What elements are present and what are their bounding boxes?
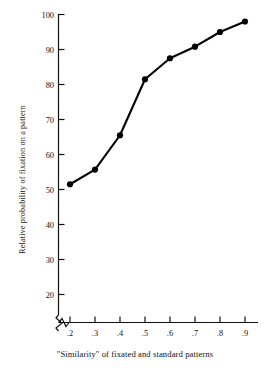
y-axis-ticks: [59, 15, 65, 295]
data-point-.5: [142, 76, 148, 82]
x-tick-label-5: .7: [192, 329, 198, 338]
data-point-.2: [67, 181, 73, 187]
y-tick-label-90: 90: [46, 46, 54, 55]
x-axis-ticks: [70, 317, 245, 323]
y-tick-label-70: 70: [46, 116, 54, 125]
x-tick-label-3: .5: [142, 329, 148, 338]
data-point-.9: [242, 18, 248, 24]
data-point-.4: [117, 132, 123, 138]
axis-lines: [56, 14, 258, 331]
x-tick-label-0: .2: [67, 329, 73, 338]
y-tick-label-40: 40: [46, 221, 54, 230]
x-tick-label-6: .8: [217, 329, 223, 338]
data-point-.7: [192, 44, 198, 50]
x-tick-label-1: .3: [92, 329, 98, 338]
x-axis-tick-labels: .2 .3 .4 .5 .6 .7 .8 .9: [67, 329, 248, 338]
y-axis-tick-labels: 100 90 80 70 60 50 40 30 20: [41, 11, 54, 300]
x-axis-title: "Similarity" of fixated and standard pat…: [0, 349, 270, 359]
y-axis-title: Relative probability of fixation on a pa…: [18, 70, 27, 290]
y-tick-label-80: 80: [46, 81, 54, 90]
data-series-markers: [67, 18, 248, 187]
y-tick-label-60: 60: [46, 151, 54, 160]
data-point-.8: [217, 29, 223, 35]
chart-figure: 100 90 80 70 60 50 40 30 20 .2 .3 .4 .5: [0, 0, 270, 372]
data-point-.6: [167, 55, 173, 61]
x-tick-label-7: .9: [242, 329, 248, 338]
y-tick-label-100: 100: [41, 11, 54, 20]
y-tick-label-50: 50: [46, 186, 54, 195]
data-point-.3: [92, 166, 98, 172]
data-series-line: [70, 22, 245, 185]
x-tick-label-4: .6: [167, 329, 173, 338]
x-tick-label-2: .4: [117, 329, 124, 338]
y-tick-label-20: 20: [46, 291, 54, 300]
line-chart-canvas: 100 90 80 70 60 50 40 30 20 .2 .3 .4 .5: [0, 0, 270, 372]
y-tick-label-30: 30: [46, 256, 54, 265]
